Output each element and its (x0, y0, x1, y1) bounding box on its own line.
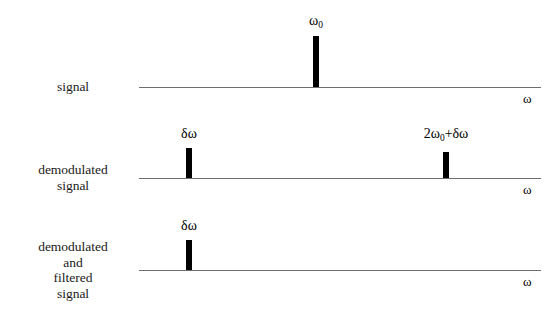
spike-label-signal-carrier: ω0 (309, 14, 323, 29)
axis-line-signal (139, 87, 541, 88)
spike-label-demodulated-second-harmonic: 2ω0+δω (424, 127, 469, 142)
axis-line-demodulated-filtered-signal (139, 270, 541, 271)
row-label-signal: signal (8, 79, 138, 95)
axis-omega-label-demodulated-filtered-signal: ω (523, 275, 532, 288)
spike-label-text: ω (309, 13, 318, 28)
axis-omega-label-signal: ω (523, 92, 532, 105)
spike-label-text: δω (181, 218, 197, 233)
axis-omega-label-demodulated-signal: ω (523, 183, 532, 196)
spike-label-sub: 0 (440, 133, 445, 143)
row-label-demodulated-signal: demodulated signal (8, 162, 138, 193)
spectra-figure: signal ω0 ω demodulated signal δω 2ω0+δω… (0, 0, 554, 313)
spike-demodulated-baseband (186, 148, 192, 178)
spike-label-sub: 0 (318, 20, 323, 30)
row-label-demodulated-filtered-signal: demodulated and filtered signal (8, 239, 138, 301)
spike-label-text: 2ω (424, 126, 440, 141)
spike-label-text: δω (181, 126, 197, 141)
spike-label-demodulated-baseband: δω (181, 127, 197, 141)
spike-filtered-baseband (186, 240, 192, 270)
spike-demodulated-second-harmonic (443, 152, 449, 178)
axis-line-demodulated-signal (139, 178, 541, 179)
spike-label-filtered-baseband: δω (181, 219, 197, 233)
spike-signal-carrier (313, 36, 319, 87)
spike-label-suffix: +δω (445, 126, 469, 141)
